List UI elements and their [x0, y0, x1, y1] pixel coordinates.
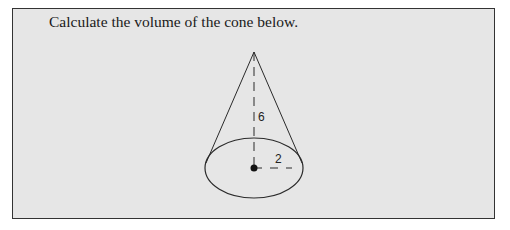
radius-label: 2 [275, 152, 282, 166]
cone-left-side [206, 52, 254, 163]
cone-right-side [254, 52, 302, 163]
height-label: 6 [258, 110, 265, 124]
cone-diagram: 6 2 [0, 0, 510, 230]
base-center-dot [251, 165, 258, 172]
